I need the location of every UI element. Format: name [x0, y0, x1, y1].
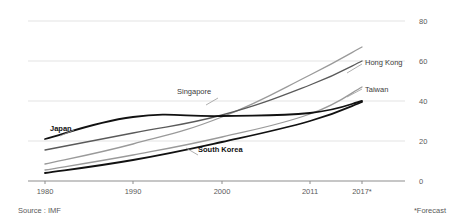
series-line-taiwan [45, 87, 362, 170]
series-paths-group [45, 47, 362, 173]
x-tick-label-2011: 2011 [302, 187, 318, 196]
forecast-note: *Forecast [414, 206, 446, 215]
y-tick-label-60: 60 [419, 57, 427, 66]
series-label-south-korea: South Korea [198, 145, 243, 154]
chart-container: 020406080 19801990200020112017* Singapor… [0, 0, 452, 220]
series-label-japan: Japan [50, 124, 72, 133]
y-tick-label-80: 80 [419, 17, 427, 26]
x-tick-label-1990: 1990 [125, 187, 142, 196]
x-tick-label-1980: 1980 [37, 187, 54, 196]
series-label-taiwan: Taiwan [365, 85, 388, 94]
source-note: Source : IMF [18, 206, 61, 215]
gridlines-group [28, 21, 405, 141]
leader-line-taiwan [347, 89, 362, 97]
y-tick-label-20: 20 [419, 137, 427, 146]
x-tick-labels-group: 19801990200020112017* [37, 187, 372, 196]
series-label-singapore: Singapore [177, 87, 211, 96]
series-line-hong-kong [45, 61, 362, 150]
x-tick-label-2017star: 2017* [352, 187, 372, 196]
axis-group [28, 181, 405, 184]
series-label-hong-kong: Hong Kong [365, 58, 403, 67]
y-tick-labels-group: 020406080 [419, 17, 427, 186]
line-chart-svg: 020406080 19801990200020112017* Singapor… [0, 0, 452, 220]
x-tick-label-2000: 2000 [214, 187, 231, 196]
y-tick-label-0: 0 [419, 177, 423, 186]
series-labels-group: SingaporeHong KongTaiwanJapanSouth Korea [50, 58, 403, 154]
y-tick-label-40: 40 [419, 97, 427, 106]
